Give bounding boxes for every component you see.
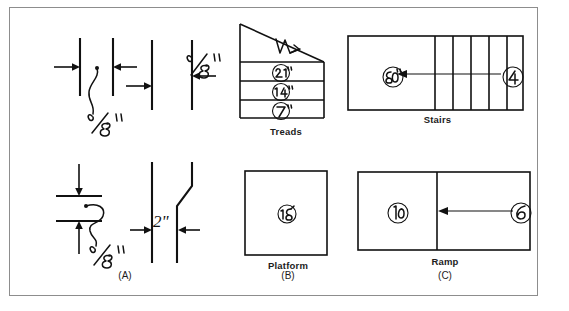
ramp-callout-circle-right — [506, 198, 536, 228]
figure-border: 2" — [9, 7, 538, 296]
caption-stairs: Stairs — [345, 114, 530, 125]
panel-stairs: Stairs — [345, 30, 530, 122]
platform-callout-circle — [273, 200, 303, 230]
column-label-b: (B) — [228, 270, 348, 281]
dimension-callout-eighth-inch-1 — [86, 110, 134, 140]
dimension-callout-two-inch: 2" — [153, 212, 169, 232]
ramp-callout-circle-left — [383, 198, 413, 228]
stairs-callout-circle-right — [498, 62, 528, 92]
column-label-a: (A) — [65, 270, 185, 281]
treads-callout-circles — [264, 64, 298, 134]
dimension-callout-eighth-inch-2 — [183, 50, 231, 82]
panel-platform: Platform — [242, 168, 334, 263]
panel-treads: Treads — [236, 22, 336, 122]
column-label-c: (C) — [385, 270, 505, 281]
caption-treads: Treads — [236, 126, 336, 137]
caption-ramp: Ramp — [355, 256, 535, 267]
stairs-callout-circle-left — [378, 62, 408, 92]
detail-line-weight-gap — [40, 28, 225, 138]
panel-ramp: Ramp — [355, 168, 535, 263]
detail-offset-break: 2" — [40, 158, 225, 273]
dimension-callout-eighth-inch-3 — [88, 242, 136, 272]
